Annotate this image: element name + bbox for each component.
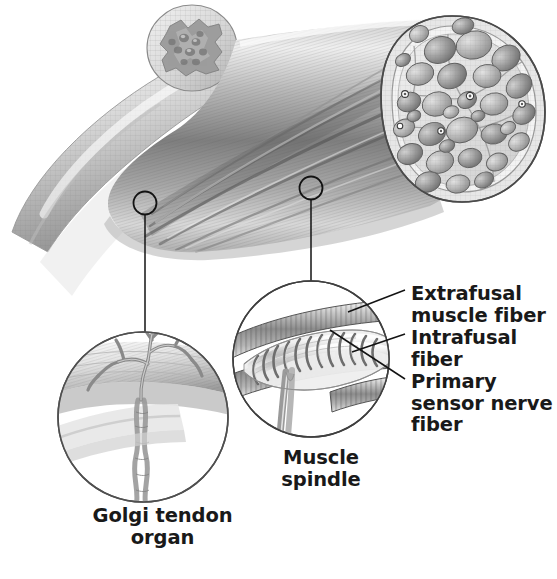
- label-extrafusal-muscle-fiber: Extrafusal muscle fiber: [411, 283, 557, 326]
- figure-canvas: Extrafusal muscle fiber Intrafusal fiber…: [0, 0, 557, 579]
- label-muscle-spindle: Muscle spindle: [256, 447, 386, 490]
- label-intrafusal-fiber: Intrafusal fiber: [411, 327, 557, 370]
- label-golgi-tendon-organ: Golgi tendon organ: [55, 505, 270, 548]
- label-primary-sensor-nerve-fiber: Primary sensor nerve fiber: [411, 371, 557, 436]
